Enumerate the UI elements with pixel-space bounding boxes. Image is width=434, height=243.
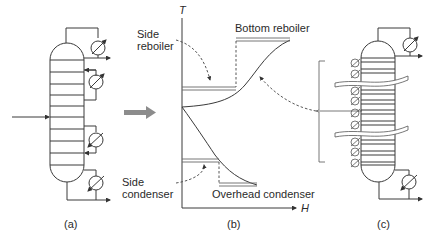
- column-c: [316, 28, 422, 199]
- profile-pointer: [260, 77, 316, 111]
- h-axis-label: H: [301, 202, 309, 214]
- caption-c: (c): [377, 218, 390, 230]
- diagram-canvas: [0, 0, 434, 243]
- column-a: [12, 28, 110, 200]
- transition-arrow: [124, 106, 156, 119]
- bracket: [316, 61, 325, 162]
- overhead-condenser-label: Overhead condenser: [212, 188, 315, 200]
- caption-a: (a): [64, 218, 77, 230]
- t-axis-label: T: [179, 4, 186, 16]
- bottom-reboiler-label: Bottom reboiler: [235, 22, 310, 34]
- side-reboiler-pointer: [176, 40, 210, 80]
- caption-b: (b): [227, 218, 240, 230]
- side-condenser-label: Side condenser: [122, 176, 173, 200]
- rectifying-profile: [182, 107, 257, 185]
- th-diagram: [176, 18, 316, 208]
- side-condenser-pointer: [176, 165, 204, 183]
- side-reboiler-label: Side reboiler: [137, 28, 174, 52]
